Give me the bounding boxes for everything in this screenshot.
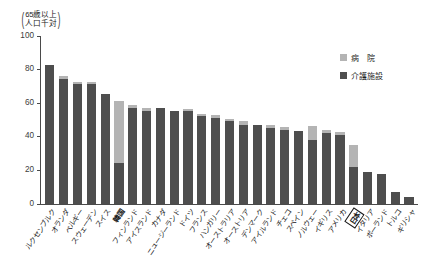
bar-slot (126, 36, 140, 204)
y-tick-label: 80 (25, 64, 34, 73)
stacked-bar[interactable] (128, 105, 137, 204)
stacked-bar[interactable] (308, 126, 317, 204)
x-label-slot: ルクセンブルク (42, 206, 56, 270)
stacked-bar[interactable] (349, 145, 358, 204)
stacked-bar[interactable] (239, 121, 248, 204)
stacked-bar[interactable] (101, 94, 110, 204)
bar-segment-facility (59, 79, 68, 204)
stacked-bar[interactable] (335, 132, 344, 204)
bar-segment-facility (239, 125, 248, 204)
bar-segment-facility (183, 111, 192, 204)
legend-label-hospital: 病 院 (351, 52, 375, 63)
bar-segment-facility (322, 133, 331, 204)
bar-slot (195, 36, 209, 204)
stacked-bar[interactable] (322, 130, 331, 204)
bar-segment-facility (114, 163, 123, 204)
stacked-bar[interactable] (253, 125, 262, 204)
paren-right-glyph: ) (58, 9, 61, 30)
x-label-slot: ポーランド (375, 206, 389, 270)
bar-slot (264, 36, 278, 204)
stacked-bar[interactable] (211, 115, 220, 204)
bar-slot (402, 36, 416, 204)
bar-segment-facility (73, 84, 82, 204)
bar-slot (154, 36, 168, 204)
bar-segment-facility (142, 111, 151, 204)
stacked-bar[interactable] (87, 82, 96, 204)
bar-slot (167, 36, 181, 204)
bar-segment-facility (211, 118, 220, 204)
x-label-slot: ノルウェー (305, 206, 319, 270)
stacked-bar[interactable] (404, 197, 413, 204)
bar-slot (236, 36, 250, 204)
x-label-slot: ニュージーランド (167, 206, 181, 270)
y-axis-unit-line2: 人口千対 (25, 19, 56, 28)
bar-slot (140, 36, 154, 204)
bar-segment-facility (308, 140, 317, 204)
x-label-slot: スイス (97, 206, 111, 270)
bar-segment-facility (170, 111, 179, 204)
y-tick-label: 60 (25, 98, 34, 107)
bar-slot (223, 36, 237, 204)
bar-slot (98, 36, 112, 204)
x-label-slot: スウェーデン (84, 206, 98, 270)
bar-slot (84, 36, 98, 204)
bar-slot (43, 36, 57, 204)
bar-slot (388, 36, 402, 204)
x-label-slot: ドイツ (181, 206, 195, 270)
stacked-bar[interactable] (73, 82, 82, 204)
legend-label-facility: 介護施設 (351, 70, 383, 81)
stacked-bar[interactable] (280, 127, 289, 204)
bar-segment-facility (87, 84, 96, 204)
bar-slot (112, 36, 126, 204)
bar-segment-facility (253, 125, 262, 204)
x-axis-labels: ルクセンブルクオランダベルギースウェーデンスイス韓国フィンランドアイスランドカナ… (40, 206, 418, 270)
x-label-slot: チェコ (278, 206, 292, 270)
stacked-bar[interactable] (45, 65, 54, 204)
stacked-bar[interactable] (59, 76, 68, 204)
bar-segment-facility (128, 108, 137, 204)
x-label-slot: アメリカ (333, 206, 347, 270)
legend-item-facility[interactable]: 介護施設 (340, 70, 383, 81)
stacked-bar[interactable] (377, 174, 386, 204)
stacked-bar[interactable] (183, 109, 192, 204)
bar-slot (278, 36, 292, 204)
bar-segment-hospital (114, 101, 123, 164)
bar-slot (57, 36, 71, 204)
stacked-bar[interactable] (170, 111, 179, 204)
x-label-slot: トルコ (388, 206, 402, 270)
bar-slot (319, 36, 333, 204)
x-label-slot: ギリシャ (402, 206, 416, 270)
stacked-bar[interactable] (266, 125, 275, 204)
legend-swatch-facility (340, 72, 347, 79)
bar-segment-facility (363, 172, 372, 204)
stacked-bar[interactable] (225, 119, 234, 204)
bar-segment-hospital (308, 126, 317, 140)
x-label-slot: イギリス (319, 206, 333, 270)
bar-segment-facility (391, 192, 400, 204)
stacked-bar[interactable] (391, 192, 400, 204)
stacked-bar[interactable] (197, 114, 206, 204)
bar-slot (292, 36, 306, 204)
bar-segment-facility (377, 174, 386, 204)
stacked-bar[interactable] (114, 101, 123, 204)
y-axis-unit-line1: 65歳以上 (25, 10, 56, 19)
bar-slot (209, 36, 223, 204)
chart-legend: 病 院介護施設 (340, 52, 383, 81)
bar-slot (250, 36, 264, 204)
stacked-bar[interactable] (156, 108, 165, 204)
y-tick-label: 0 (29, 199, 34, 208)
bar-segment-facility (101, 94, 110, 204)
y-tick-label: 40 (25, 131, 34, 140)
bar-slot (181, 36, 195, 204)
bar-slot (71, 36, 85, 204)
bar-segment-facility (156, 108, 165, 204)
bar-segment-facility (197, 116, 206, 204)
chart-container: ( 65歳以上 人口千対 ) 020406080100 病 院介護施設 ルクセン… (0, 0, 430, 272)
stacked-bar[interactable] (142, 108, 151, 204)
y-axis-unit-caption: ( 65歳以上 人口千対 ) (4, 4, 78, 34)
stacked-bar[interactable] (363, 172, 372, 204)
bar-segment-facility (266, 128, 275, 204)
paren-left-glyph: ( (22, 9, 25, 30)
legend-item-hospital[interactable]: 病 院 (340, 52, 383, 63)
stacked-bar[interactable] (294, 131, 303, 204)
